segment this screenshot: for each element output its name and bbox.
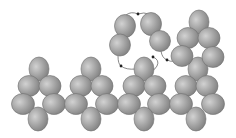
domain-sphere [186, 107, 206, 131]
arrowhead-icon [137, 13, 140, 16]
spheres-layer [12, 10, 225, 131]
domain-sphere [144, 76, 166, 97]
domain-sphere [134, 107, 154, 131]
arrowhead-icon [120, 65, 123, 68]
diagram-svg [0, 0, 236, 138]
domain-sphere [39, 76, 61, 97]
domain-sphere [150, 31, 171, 52]
domain-sphere [110, 34, 131, 56]
domain-sphere [202, 94, 225, 115]
floating-pair-right [141, 13, 171, 52]
domain-sphere [81, 107, 101, 131]
domain-sphere [28, 107, 48, 131]
domain-sphere [175, 76, 197, 97]
domain-sphere [171, 46, 193, 67]
domain-sphere [198, 28, 220, 49]
cluster-2 [65, 57, 119, 131]
arrowhead-icon [152, 56, 155, 59]
floating-pair-left [110, 15, 136, 57]
domain-sphere [70, 76, 92, 97]
arrowhead-icon [166, 59, 169, 62]
domain-sphere [91, 76, 113, 97]
cluster-4 [170, 57, 225, 131]
domain-sphere [202, 47, 224, 68]
domain-sphere [123, 76, 145, 97]
cluster-1 [12, 57, 66, 131]
protein-domain-diagram [0, 0, 236, 138]
